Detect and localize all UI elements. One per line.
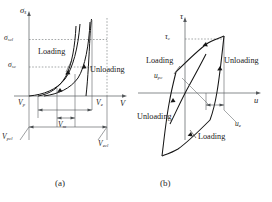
leader-vpcl — [20, 127, 29, 140]
curve-b-backbone — [170, 54, 206, 124]
curve-envelope — [44, 22, 90, 96]
dimension-lines — [29, 110, 107, 127]
tick-label-u-pc: upc — [154, 72, 162, 81]
dimension-arrowheads — [29, 108, 107, 128]
leader-b-loading-upper — [174, 66, 180, 74]
tick-label-tau-c: τc — [165, 33, 170, 42]
tick-label-u-e: ue — [235, 120, 241, 129]
y-axis-arrow-b — [183, 17, 187, 22]
axis-label-tau: τ — [180, 12, 183, 21]
loading-label-b-upper: Loading — [146, 57, 173, 65]
panel-a-plot — [0, 0, 136, 160]
axis-label-v: V — [120, 99, 125, 108]
figure-root: σs σscl σsc Loading Unloading Vp Ve V Vp… — [0, 0, 272, 202]
y-axis-arrow — [27, 11, 31, 16]
arrow-b-upper-unloading — [217, 66, 222, 71]
axis-label-sigma-s: σs — [20, 6, 26, 15]
caption-b: (b) — [160, 178, 171, 188]
arrow-b-lower-unloading — [170, 98, 175, 102]
curve-direction-arrows — [57, 64, 86, 92]
arrow-lower-dir — [57, 88, 62, 92]
curve-middle — [29, 24, 80, 96]
arrow-unloading-dir — [82, 64, 87, 69]
unloading-label-a: Unloading — [90, 66, 125, 74]
tick-label-sigma-sc: σsc — [8, 61, 16, 70]
tick-label-v-m: Vm — [58, 121, 66, 130]
caption-a: (a) — [55, 178, 65, 188]
tick-label-sigma-scl: σscl — [4, 34, 13, 43]
curve-b-unloading-upper — [210, 36, 224, 120]
panel-a: σs σscl σsc Loading Unloading Vp Ve V Vp… — [0, 0, 136, 160]
tick-label-v-e: Ve — [96, 99, 103, 108]
axis-label-u: u — [254, 96, 258, 105]
tick-label-v-ecl: Vecl — [98, 140, 108, 149]
unloading-label-b-lower: Unloading — [137, 113, 172, 121]
loop-direction-arrows — [170, 42, 222, 136]
tick-label-v-pcl: Vpcl — [2, 133, 13, 142]
curve-unloading — [86, 19, 92, 96]
loading-label-b-lower: Loading — [198, 133, 225, 141]
unloading-label-b-upper: Unloading — [224, 57, 259, 65]
panel-b: τ τc Loading Unloading upc u Unloading u… — [136, 0, 272, 160]
tick-label-v-p: Vp — [18, 99, 25, 108]
loading-label-a: Loading — [38, 48, 65, 56]
